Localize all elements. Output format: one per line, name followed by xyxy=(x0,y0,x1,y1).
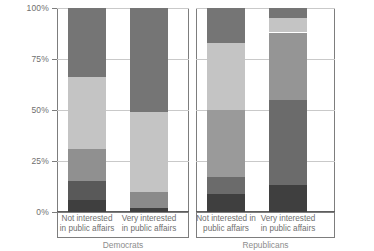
bar-segment-4[interactable] xyxy=(207,43,245,110)
x-axis-tick-label: Very interestedin public affairs xyxy=(243,214,333,233)
stacked-bar[interactable] xyxy=(207,8,245,212)
bar-segment-2[interactable] xyxy=(269,100,307,186)
stacked-bar[interactable] xyxy=(68,8,106,212)
y-axis-tick-label: 50% xyxy=(31,105,49,115)
bar-segment-3[interactable] xyxy=(130,112,168,192)
bar-segment-5[interactable] xyxy=(269,8,307,18)
bar-segment-3[interactable] xyxy=(269,33,307,100)
bar-segment-5[interactable] xyxy=(68,8,106,77)
y-axis-tick-label: 75% xyxy=(31,54,49,64)
bar-segment-4[interactable] xyxy=(130,8,168,112)
bar-segment-5[interactable] xyxy=(207,8,245,43)
bar-segment-3[interactable] xyxy=(68,149,106,182)
bar-segment-1[interactable] xyxy=(207,194,245,212)
y-axis-tick-label: 25% xyxy=(31,156,49,166)
chart-panel-republicans xyxy=(196,8,335,212)
bar-segment-2[interactable] xyxy=(68,181,106,199)
bar-segment-2[interactable] xyxy=(207,177,245,193)
stacked-bar[interactable] xyxy=(130,8,168,212)
panel-label: Democrats xyxy=(43,240,203,250)
bar-segment-1[interactable] xyxy=(269,185,307,212)
bar-segment-4[interactable] xyxy=(68,77,106,148)
bar-segment-1[interactable] xyxy=(68,200,106,212)
bar-segment-3[interactable] xyxy=(207,110,245,177)
bar-segment-2[interactable] xyxy=(130,192,168,208)
chart-panel-democrats xyxy=(57,8,189,212)
chart-root: 0%25%50%75%100% Not interestedin public … xyxy=(0,0,374,251)
stacked-bar[interactable] xyxy=(269,8,307,212)
panel-label: Republicans xyxy=(186,240,346,250)
bar-segment-4[interactable] xyxy=(269,18,307,32)
y-axis-tick-label: 100% xyxy=(26,3,49,13)
